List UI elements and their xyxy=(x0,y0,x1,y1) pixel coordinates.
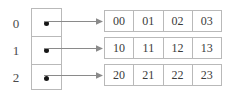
data-cell: 13 xyxy=(192,38,221,58)
data-row-1: 10 11 12 13 xyxy=(104,37,222,59)
data-cell: 10 xyxy=(105,38,133,58)
data-cell: 02 xyxy=(163,11,192,31)
data-cell: 01 xyxy=(133,11,162,31)
array-pointer-diagram: 0 1 2 00 01 02 03 xyxy=(0,0,231,100)
data-cell: 22 xyxy=(163,65,192,85)
row-index-label-1: 1 xyxy=(8,44,24,57)
arrow-icon-row-2 xyxy=(44,71,104,80)
data-cell: 00 xyxy=(105,11,133,31)
data-cell: 23 xyxy=(192,65,221,85)
arrow-icon-row-1 xyxy=(44,44,104,53)
row-index-label-2: 2 xyxy=(8,71,24,84)
data-cell: 11 xyxy=(133,38,162,58)
data-cell: 21 xyxy=(133,65,162,85)
arrow-icon-row-0 xyxy=(44,17,104,26)
data-cell: 03 xyxy=(192,11,221,31)
data-row-2: 20 21 22 23 xyxy=(104,64,222,86)
row-index-label-0: 0 xyxy=(8,17,24,30)
data-cell: 12 xyxy=(163,38,192,58)
data-cell: 20 xyxy=(105,65,133,85)
data-row-0: 00 01 02 03 xyxy=(104,10,222,32)
